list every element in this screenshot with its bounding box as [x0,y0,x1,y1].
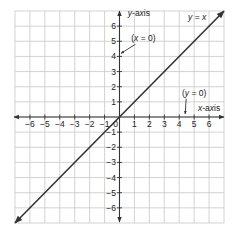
x-tick-label: 6 [207,119,212,129]
y-tick-label: 5 [111,36,116,46]
annotation-pointer-arrow [185,99,186,114]
x-tick-label: 2 [147,119,152,129]
y-tick-label: −3 [106,157,116,167]
x-tick-label: 3 [162,119,167,129]
x-tick-label: −6 [25,119,35,129]
x-tick-label: 5 [192,119,197,129]
x-tick-label: −4 [55,119,65,129]
x-tick-label: −2 [85,119,95,129]
x-tick-label: 1 [132,119,137,129]
annotation-y-x: y = x [187,12,207,22]
y-tick-label: 6 [111,21,116,31]
y-tick-label: −6 [106,203,116,213]
coordinate-plane-chart: −6−5−4−3−2−10123456654321−1−2−3−4−5−6 y … [0,0,234,238]
annotation-x-0: (x = 0) [131,33,156,43]
annotation-y-0: (y = 0) [182,88,207,98]
y-tick-label: 2 [111,82,116,92]
y-tick-label: −4 [106,173,116,183]
y-tick-label: 3 [111,67,116,77]
annotation-x-axis: x-axis [197,103,220,113]
x-tick-label: 4 [177,119,182,129]
x-tick-label: −5 [40,119,50,129]
y-tick-label: 4 [111,51,116,61]
x-tick-label: −3 [70,119,80,129]
y-tick-label: −2 [106,142,116,152]
annotation-y-axis: y-axis [127,8,150,18]
annotation-pointer-arrow [121,44,135,53]
y-tick-label: −5 [106,188,116,198]
y-tick-label: 1 [111,97,116,107]
annotations: y = x(x = 0)(y = 0)y-axisx-axis [121,8,220,114]
